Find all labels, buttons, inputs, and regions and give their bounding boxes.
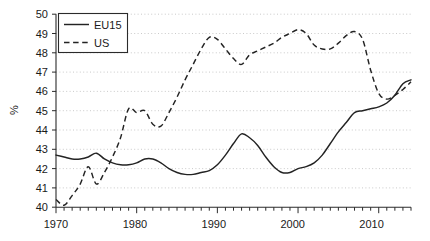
y-tick-label-48: 48 xyxy=(36,47,48,59)
y-tick-label-42: 42 xyxy=(36,163,48,175)
x-tick-label-1990: 1990 xyxy=(202,218,226,230)
legend-label-eu15: EU15 xyxy=(94,19,122,31)
y-tick-label-45: 45 xyxy=(36,105,48,117)
series-line-us xyxy=(56,30,411,206)
y-tick-label-46: 46 xyxy=(36,85,48,97)
y-tick-label-41: 41 xyxy=(36,182,48,194)
legend-label-us: US xyxy=(94,37,109,49)
y-tick-labels: 50 49 48 47 46 45 44 43 42 41 40 xyxy=(36,8,48,213)
chart-figure: % xyxy=(0,0,430,241)
y-tick-label-49: 49 xyxy=(36,28,48,40)
x-tick-labels: 1970 1980 1990 2000 2010 xyxy=(44,218,384,230)
line-chart: 50 49 48 47 46 45 44 43 42 41 40 1970 19… xyxy=(0,0,430,241)
x-tick-label-2000: 2000 xyxy=(280,218,304,230)
x-tick-label-1970: 1970 xyxy=(44,218,68,230)
y-tick-label-40: 40 xyxy=(36,201,48,213)
series-line-eu15 xyxy=(56,80,411,175)
y-tick-label-44: 44 xyxy=(36,124,48,136)
x-tick-marks xyxy=(56,207,411,213)
y-tick-label-43: 43 xyxy=(36,143,48,155)
y-tick-label-47: 47 xyxy=(36,66,48,78)
y-tick-marks xyxy=(52,14,56,207)
x-tick-label-1980: 1980 xyxy=(123,218,147,230)
chart-legend: EU15 US xyxy=(59,14,128,53)
y-tick-label-50: 50 xyxy=(36,8,48,20)
x-tick-label-2010: 2010 xyxy=(359,218,383,230)
